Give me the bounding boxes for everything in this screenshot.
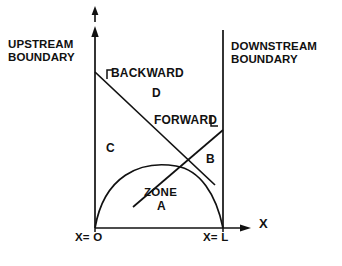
downstream-boundary-label: DOWNSTREAMBOUNDARY: [231, 40, 317, 66]
downstream-boundary-line2: BOUNDARY: [231, 53, 298, 65]
forward-characteristic-label: FORWARD: [154, 113, 217, 127]
upstream-boundary-line1: UPSTREAM: [8, 38, 73, 50]
upstream-boundary-line2: BOUNDARY: [8, 51, 75, 63]
downstream-boundary-line1: DOWNSTREAM: [231, 40, 317, 52]
backward-characteristic-label: BACKWARD: [111, 66, 184, 80]
zone-d-label: D: [152, 86, 161, 100]
zone-b-label: B: [206, 152, 215, 166]
y-axis: [91, 26, 98, 228]
top-arrow-marker: [92, 6, 99, 22]
zone-c-label: C: [106, 141, 115, 155]
x-axis-name-label: X: [259, 216, 268, 231]
upstream-boundary-label: UPSTREAMBOUNDARY: [8, 38, 75, 64]
characteristics-diagram: UPSTREAMBOUNDARY DOWNSTREAMBOUNDARY BACK…: [0, 0, 342, 266]
zone-a-letter-label: A: [157, 199, 166, 213]
zone-a-word-label: ZONE: [144, 186, 177, 198]
x-origin-label: X= O: [75, 231, 102, 243]
x-length-label: X= L: [203, 231, 228, 243]
